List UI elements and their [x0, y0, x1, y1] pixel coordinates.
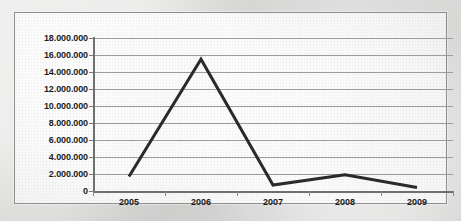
y-axis-label: 10.000.000	[44, 102, 88, 111]
x-axis-tick	[93, 191, 94, 196]
zero-baseline	[93, 191, 453, 193]
y-axis-label: 16.000.000	[44, 51, 88, 60]
y-axis-label: 18.000.000	[44, 34, 88, 43]
y-axis-label: 12.000.000	[44, 85, 88, 94]
series-plot	[93, 38, 453, 191]
series-line-path	[129, 59, 417, 187]
x-axis-tick	[309, 191, 310, 196]
chart-figure: 18.000.00016.000.00014.000.00012.000.000…	[14, 12, 447, 204]
y-axis-label: 4.000.000	[49, 153, 88, 162]
x-axis-label: 2006	[191, 198, 211, 207]
y-axis-labels-group: 18.000.00016.000.00014.000.00012.000.000…	[15, 38, 88, 191]
x-axis-tick	[165, 191, 166, 196]
x-axis-tick	[237, 191, 238, 196]
y-axis-label: 2.000.000	[49, 170, 88, 179]
y-axis-label: 0	[83, 187, 88, 196]
y-axis-label: 6.000.000	[49, 136, 88, 145]
y-axis-label: 8.000.000	[49, 119, 88, 128]
x-axis-label: 2009	[407, 198, 427, 207]
x-axis-tick	[453, 191, 454, 196]
y-axis-label: 14.000.000	[44, 68, 88, 77]
x-axis-tick	[381, 191, 382, 196]
x-axis-label: 2005	[119, 198, 139, 207]
x-axis-label: 2007	[263, 198, 283, 207]
x-axis-label: 2008	[335, 198, 355, 207]
